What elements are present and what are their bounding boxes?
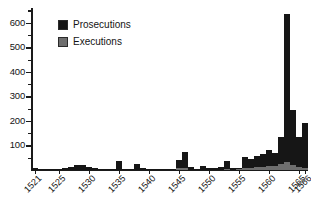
x-tick-label-1521: 1521 — [16, 174, 44, 200]
y-minor-tick-250 — [28, 109, 32, 110]
x-tick-label-1555: 1555 — [220, 174, 248, 200]
y-minor-tick-50 — [28, 158, 32, 159]
y-tick-label-200: 200 — [0, 116, 25, 126]
legend-label-prosecutions: Prosecutions — [73, 20, 131, 30]
y-tick-label-300: 300 — [0, 91, 25, 101]
legend: Prosecutions Executions — [58, 18, 131, 52]
legend-item-prosecutions: Prosecutions — [58, 18, 131, 32]
y-tick-label-400: 400 — [0, 67, 25, 77]
x-tick-label-1530: 1530 — [70, 174, 98, 200]
x-tick-label-1540: 1540 — [130, 174, 158, 200]
bar-chart: 100200300400500600 152115251530153515401… — [0, 0, 311, 200]
y-minor-tick-150 — [28, 133, 32, 134]
x-tick-label-1545: 1545 — [160, 174, 188, 200]
y-tick-500 — [26, 47, 32, 48]
y-minor-tick-450 — [28, 60, 32, 61]
y-minor-tick-550 — [28, 35, 32, 36]
y-tick-label-100: 100 — [0, 140, 25, 150]
y-tick-200 — [26, 121, 32, 122]
y-tick-600 — [26, 23, 32, 24]
x-tick-label-1535: 1535 — [100, 174, 128, 200]
x-tick-label-1560: 1560 — [250, 174, 278, 200]
y-minor-tick-350 — [28, 84, 32, 85]
x-tick-label-1550: 1550 — [190, 174, 218, 200]
bar-segment-executions — [302, 168, 308, 170]
legend-item-executions: Executions — [58, 35, 131, 49]
y-tick-label-500: 500 — [0, 42, 25, 52]
y-tick-300 — [26, 96, 32, 97]
legend-label-executions: Executions — [73, 37, 122, 47]
y-tick-label-600: 600 — [0, 18, 25, 28]
y-tick-100 — [26, 145, 32, 146]
bar-segment-prosecutions — [302, 123, 308, 170]
x-tick-label-1525: 1525 — [40, 174, 68, 200]
legend-swatch-executions-icon — [58, 37, 68, 47]
y-tick-400 — [26, 72, 32, 73]
legend-swatch-prosecutions-icon — [58, 20, 68, 30]
y-minor-tick-650 — [28, 10, 32, 11]
bar-1566 — [302, 8, 308, 170]
